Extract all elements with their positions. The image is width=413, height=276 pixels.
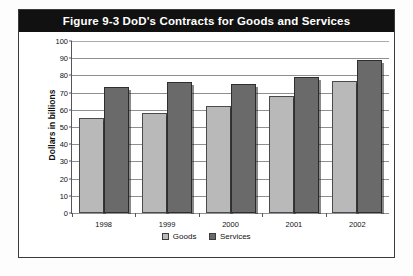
bar-goods-1999 [142, 113, 167, 213]
figure-title-bar: Figure 9-3 DoD's Contracts for Goods and… [19, 10, 394, 32]
figure-container: Figure 9-3 DoD's Contracts for Goods and… [18, 9, 395, 258]
bar-goods-2000 [206, 106, 231, 213]
bar-groups: 19981999200020012002 [72, 41, 389, 213]
bar-services-1999 [167, 82, 192, 213]
y-axis-tick-label: 100 [55, 37, 68, 46]
bar-group: 2002 [326, 41, 389, 213]
y-axis-tick-label: 0 [64, 209, 68, 218]
legend-label: Goods [173, 232, 197, 241]
y-axis-label: Dollars in billions [47, 65, 57, 185]
x-axis-tick-label: 1999 [159, 220, 176, 229]
x-axis-tick-mark [72, 213, 73, 217]
x-axis-tick-mark [199, 213, 200, 217]
x-axis-tick-mark [326, 213, 327, 217]
x-axis-tick-label: 2000 [222, 220, 239, 229]
bar-group: 2000 [199, 41, 262, 213]
plot-area: 0102030405060708090100 19981999200020012… [71, 41, 389, 214]
y-axis-tick-label: 70 [60, 88, 68, 97]
y-axis-tick-label: 30 [60, 157, 68, 166]
chart-legend: GoodsServices [19, 232, 394, 241]
x-axis-tick-mark [262, 213, 263, 217]
y-axis-tick-label: 60 [60, 105, 68, 114]
bar-services-2000 [231, 84, 256, 213]
y-axis-tick-label: 50 [60, 123, 68, 132]
x-axis-tick-mark [135, 213, 136, 217]
legend-swatch-icon [209, 233, 216, 240]
bar-goods-1998 [79, 118, 104, 213]
x-axis-tick-label: 2001 [286, 220, 303, 229]
x-axis-tick-label: 1998 [95, 220, 112, 229]
bar-services-2001 [294, 77, 319, 213]
y-axis-tick-label: 90 [60, 54, 68, 63]
bar-group: 1998 [72, 41, 135, 213]
figure-page: Figure 9-3 DoD's Contracts for Goods and… [0, 0, 413, 276]
y-axis-tick-label: 20 [60, 174, 68, 183]
bar-goods-2002 [332, 81, 357, 213]
legend-label: Services [220, 232, 251, 241]
page-title: Figure 9-3 DoD's Contracts for Goods and… [63, 15, 350, 27]
x-axis-tick-label: 2002 [349, 220, 366, 229]
y-axis-tick-label: 40 [60, 140, 68, 149]
legend-item-goods: Goods [162, 232, 196, 241]
bar-services-2002 [357, 60, 382, 213]
y-axis-tick-label: 10 [60, 191, 68, 200]
legend-swatch-icon [162, 233, 169, 240]
bar-group: 1999 [135, 41, 198, 213]
bar-services-1998 [104, 87, 129, 213]
bar-group: 2001 [262, 41, 325, 213]
y-axis-tick-label: 80 [60, 71, 68, 80]
legend-item-services: Services [209, 232, 250, 241]
bar-goods-2001 [269, 96, 294, 213]
chart-area: Dollars in billions 01020304050607080901… [19, 32, 394, 259]
